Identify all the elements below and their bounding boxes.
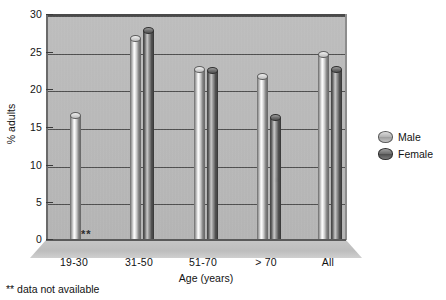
legend-label-female: Female xyxy=(398,148,433,160)
bar-male-31-50 xyxy=(130,39,141,240)
legend-label-male: Male xyxy=(398,131,421,143)
y-tick-label: 30 xyxy=(16,8,42,20)
y-tick-label: 20 xyxy=(16,83,42,95)
bar-group-over-70-female xyxy=(270,14,281,240)
x-tick-label-51-70: 51-70 xyxy=(173,256,233,268)
y-tick-30: 30 xyxy=(8,8,42,20)
y-tick-label: 5 xyxy=(16,196,42,208)
y-tick-mark xyxy=(46,89,53,90)
cylinder-cap xyxy=(194,66,205,73)
bar-male-51-70 xyxy=(194,70,205,240)
y-tick-25: 25 xyxy=(8,46,42,58)
y-tick-mark xyxy=(46,165,53,166)
cylinder-swatch-icon xyxy=(378,131,393,143)
bar-group-51-70-female xyxy=(207,14,218,240)
y-tick-mark xyxy=(46,202,53,203)
x-tick-label-19-30: 19-30 xyxy=(44,256,104,268)
legend-item-male: Male xyxy=(378,128,433,145)
y-axis-title: % adults xyxy=(5,84,17,164)
cylinder-swatch-icon xyxy=(378,148,393,160)
y-tick-0: 0 xyxy=(8,233,42,245)
legend-item-female: Female xyxy=(378,145,433,162)
chart-floor-edge xyxy=(46,239,346,241)
cylinder-cap xyxy=(318,51,329,58)
bar-group-all xyxy=(318,14,329,240)
y-tick-mark xyxy=(46,239,53,240)
cylinder-cap xyxy=(331,66,342,73)
y-tick-label: 0 xyxy=(16,233,42,245)
y-tick-label: 10 xyxy=(16,159,42,171)
cylinder-cap xyxy=(207,67,218,74)
y-tick-label: 25 xyxy=(16,46,42,58)
bar-group-31-50-female xyxy=(143,14,154,240)
bar-chart: ** xyxy=(0,0,446,300)
bar-group-all-female xyxy=(331,14,342,240)
bar-group-51-70 xyxy=(194,14,205,240)
y-tick-5: 5 xyxy=(8,196,42,208)
y-tick-mark xyxy=(46,127,53,128)
bar-female-31-50 xyxy=(143,31,154,240)
bar-group-31-50 xyxy=(130,14,141,240)
cylinder-cap xyxy=(143,27,154,34)
cylinder-cap xyxy=(130,35,141,42)
x-tick-label-over-70: > 70 xyxy=(236,256,296,268)
y-tick-label: 15 xyxy=(16,121,42,133)
bars-layer xyxy=(46,14,346,240)
bar-group-19-30 xyxy=(70,14,81,240)
chart-footnote: ** data not available xyxy=(6,283,99,295)
bar-group-over-70 xyxy=(257,14,268,240)
bar-male-over-70 xyxy=(257,77,268,241)
cylinder-cap xyxy=(70,112,81,119)
bar-male-19-30 xyxy=(70,116,81,240)
x-tick-label-all: All xyxy=(298,256,358,268)
y-tick-mark xyxy=(46,14,53,15)
bar-female-51-70 xyxy=(207,71,218,241)
bar-female-over-70 xyxy=(270,118,281,240)
bar-female-all xyxy=(331,70,342,240)
cylinder-cap xyxy=(270,114,281,121)
y-tick-mark xyxy=(46,52,53,53)
chart-legend: Male Female xyxy=(378,128,433,162)
cylinder-cap xyxy=(257,73,268,80)
x-tick-label-31-50: 31-50 xyxy=(109,256,169,268)
bar-male-all xyxy=(318,55,329,240)
x-axis-title: Age (years) xyxy=(179,272,233,284)
